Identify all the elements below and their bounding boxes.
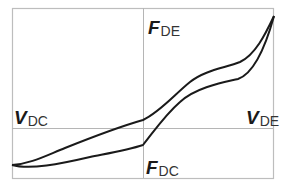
label-v-de: VDE bbox=[246, 108, 279, 127]
label-v-dc-main: V bbox=[14, 107, 27, 128]
label-f-dc-sub: DC bbox=[159, 163, 179, 179]
label-v-de-sub: DE bbox=[260, 113, 279, 129]
label-v-de-main: V bbox=[246, 107, 259, 128]
label-f-dc-main: F bbox=[146, 157, 158, 178]
label-f-de-sub: DE bbox=[161, 23, 180, 39]
label-f-dc: FDC bbox=[146, 158, 179, 177]
label-v-dc-sub: DC bbox=[28, 113, 48, 129]
label-f-de-main: F bbox=[148, 17, 160, 38]
label-v-dc: VDC bbox=[14, 108, 48, 127]
hysteresis-diagram bbox=[0, 0, 282, 188]
label-f-de: FDE bbox=[148, 18, 180, 37]
